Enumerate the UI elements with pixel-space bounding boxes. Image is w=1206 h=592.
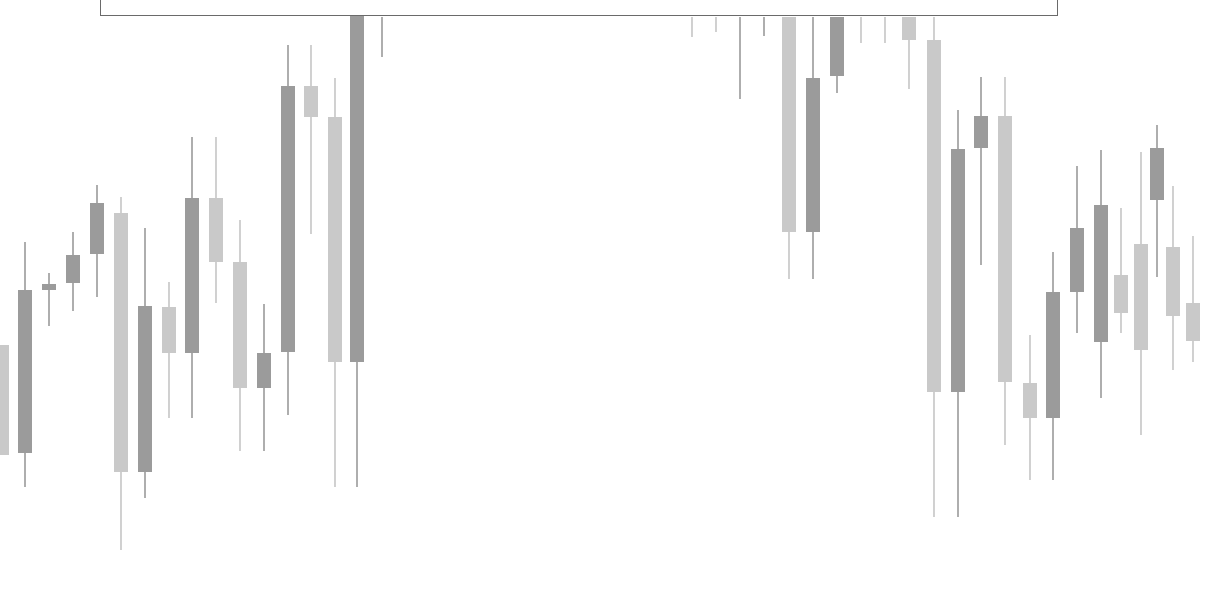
candle (114, 197, 128, 550)
candle-body (233, 262, 247, 388)
candle-body (1023, 383, 1037, 418)
candle-body (0, 345, 9, 455)
candle (1023, 335, 1037, 480)
candle-body (782, 17, 796, 232)
candles-group (0, 0, 1200, 550)
candle-body (1150, 148, 1164, 200)
candle-body (90, 203, 104, 254)
candle (1114, 208, 1128, 333)
candle (1166, 186, 1180, 370)
candle-body (951, 149, 965, 392)
candle-body (138, 306, 152, 472)
candle-body (1186, 303, 1200, 341)
candle-body (350, 0, 364, 362)
candle (830, 17, 844, 93)
candle-body (830, 17, 844, 76)
overlay-box (100, 0, 1058, 16)
candle-body (927, 40, 941, 392)
candle (350, 0, 364, 487)
candle (927, 17, 941, 517)
candle-body (1134, 244, 1148, 350)
candle (185, 137, 199, 418)
candle (1094, 150, 1108, 398)
candle (42, 273, 56, 326)
candle (304, 45, 318, 234)
candlestick-chart (0, 0, 1206, 592)
candle-body (209, 198, 223, 262)
candle-body (902, 17, 916, 40)
candle-body (1070, 228, 1084, 292)
candle-body (185, 198, 199, 353)
candle (66, 232, 80, 311)
candle (951, 110, 965, 517)
candle-body (1166, 247, 1180, 316)
candle-body (1094, 205, 1108, 342)
candle (1046, 252, 1060, 480)
candle (782, 17, 796, 279)
candle (0, 345, 9, 455)
candle-body (304, 86, 318, 117)
candle-body (328, 117, 342, 362)
candle (1186, 236, 1200, 362)
candle (209, 137, 223, 303)
candle-body (162, 307, 176, 353)
candle-body (281, 86, 295, 352)
candle (162, 282, 176, 418)
candle (1070, 166, 1084, 333)
candle-body (18, 290, 32, 453)
candle-body (257, 353, 271, 388)
candle (18, 242, 32, 487)
candle-body (806, 78, 820, 232)
candle-body (42, 284, 56, 290)
candle (138, 228, 152, 498)
candle-body (66, 255, 80, 283)
candle (90, 185, 104, 297)
candle-body (114, 213, 128, 472)
candle (998, 77, 1012, 445)
candle (257, 304, 271, 451)
candle-body (1114, 275, 1128, 313)
candle-body (1046, 292, 1060, 418)
candle-body (998, 116, 1012, 382)
candle (1150, 125, 1164, 277)
candle (328, 78, 342, 487)
candle (902, 17, 916, 89)
candle (974, 77, 988, 265)
candle-body (974, 116, 988, 148)
candle (281, 45, 295, 415)
candle (806, 17, 820, 279)
candle (233, 220, 247, 451)
candle (1134, 152, 1148, 435)
